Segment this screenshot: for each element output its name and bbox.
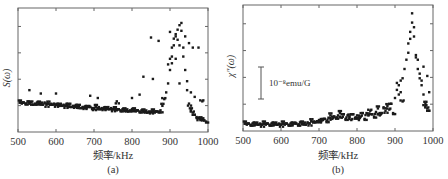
y-axis-label: χ″(ω) (225, 54, 237, 78)
scale-bar: 10⁻⁸emu/G (258, 67, 311, 99)
y-axis-label: S(ω) (1, 68, 13, 87)
panel-caption: (a) (107, 164, 119, 176)
x-tick-label: 600 (48, 136, 64, 147)
x-axis-label: 频率/kHz (93, 149, 134, 161)
x-axis-label: 频率/kHz (318, 149, 359, 161)
plot-frame (18, 8, 208, 132)
x-axis-ticks: 5006007008009001000 (10, 8, 218, 147)
x-tick-label: 1000 (198, 136, 219, 147)
panel-b: 5006007008009001000 10⁻⁸emu/G χ″(ω) 频率/k… (224, 0, 448, 179)
x-tick-label: 900 (387, 135, 403, 146)
x-tick-label: 700 (86, 136, 102, 147)
scatter-plot-b: 5006007008009001000 10⁻⁸emu/G χ″(ω) 频率/k… (224, 0, 448, 179)
scatter-plot-a: 5006007008009001000 S(ω) 频率/kHz (a) (0, 0, 224, 179)
data-points (243, 12, 431, 128)
x-tick-label: 1000 (423, 135, 444, 146)
x-tick-label: 500 (235, 135, 251, 146)
x-tick-label: 600 (273, 135, 289, 146)
data-points (18, 22, 210, 124)
x-tick-label: 900 (162, 136, 178, 147)
panel-caption: (b) (332, 164, 345, 176)
scale-bar-label: 10⁻⁸emu/G (269, 78, 311, 88)
x-tick-label: 800 (349, 135, 365, 146)
panel-a: 5006007008009001000 S(ω) 频率/kHz (a) (0, 0, 224, 179)
y-axis-ticks (243, 24, 433, 104)
x-tick-label: 500 (10, 136, 26, 147)
x-tick-label: 800 (124, 136, 140, 147)
x-tick-label: 700 (311, 135, 327, 146)
y-axis-ticks (18, 26, 208, 105)
